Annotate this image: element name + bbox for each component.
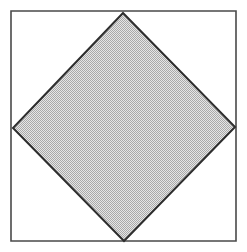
geometry-diagram-svg: [0, 0, 247, 252]
figure-container: [0, 0, 247, 252]
